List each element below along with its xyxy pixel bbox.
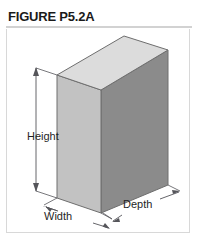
height-extension-line-top <box>36 68 57 75</box>
depth-dimension-line-segment-b <box>160 192 179 199</box>
box-diagram <box>0 0 198 247</box>
dimension-label-width: Width <box>44 210 72 222</box>
height-extension-line-bottom <box>36 191 57 198</box>
dimension-label-depth: Depth <box>123 198 152 210</box>
width-extension-line-left <box>44 198 57 205</box>
figure-panel: FIGURE P5.2A <box>0 0 198 247</box>
depth-extension-line-left <box>103 213 112 219</box>
depth-extension-line-right <box>168 185 180 191</box>
dimension-label-height: Height <box>27 130 59 142</box>
box-face-left <box>57 75 101 213</box>
height-arrow-bottom <box>33 183 39 192</box>
width-arrow-right <box>103 223 110 229</box>
